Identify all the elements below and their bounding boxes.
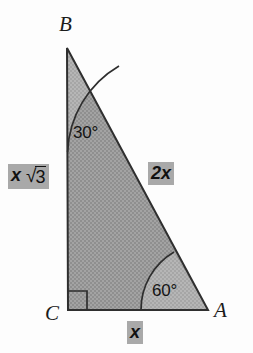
angle-label-30: 30°	[73, 124, 98, 141]
vertex-label-a: A	[214, 300, 227, 321]
angle-label-60: 60°	[152, 282, 177, 299]
side-label-leg-bc: x √ 3	[8, 164, 49, 189]
side-label-leg-ca: x	[127, 321, 143, 344]
vertex-label-b: B	[59, 14, 72, 35]
side-label-radicand: 3	[35, 166, 46, 186]
side-label-hypotenuse-text: 2x	[148, 162, 174, 185]
vertex-label-c: C	[45, 303, 59, 324]
side-label-hypotenuse: 2x	[148, 162, 174, 185]
side-label-leg-ca-text: x	[127, 321, 143, 344]
diagram-canvas: B C A 30° 60° x √ 3 2x x	[0, 0, 253, 353]
side-label-coefficient: x	[11, 166, 21, 184]
